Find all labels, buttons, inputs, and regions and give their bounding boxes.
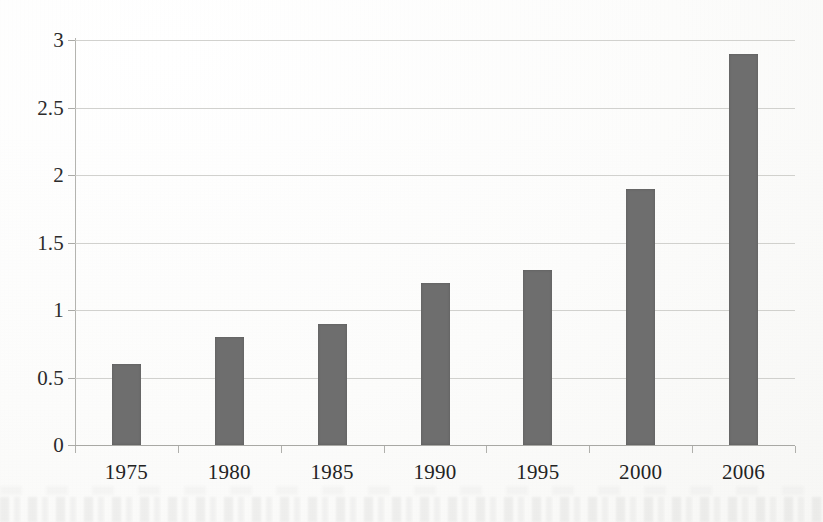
- y-tick-mark: [68, 445, 75, 446]
- bar: [421, 283, 450, 445]
- x-tick-mark: [281, 446, 282, 453]
- x-tick-mark: [486, 446, 487, 453]
- x-tick-mark: [692, 446, 693, 453]
- x-axis-tick-label: 1995: [483, 460, 593, 485]
- y-axis-tick-label: 2.5: [8, 95, 64, 120]
- x-tick-mark: [384, 446, 385, 453]
- y-tick-mark: [68, 243, 75, 244]
- x-axis-tick-label: 2000: [586, 460, 696, 485]
- y-axis-tick-label: 3: [8, 28, 64, 53]
- y-axis-tick-label: 1.5: [8, 230, 64, 255]
- y-tick-mark: [68, 310, 75, 311]
- y-axis-tick-label: 2: [8, 163, 64, 188]
- bar: [523, 270, 552, 446]
- bar: [626, 189, 655, 446]
- x-tick-mark: [795, 446, 796, 453]
- bar-chart: 00.511.522.53 19751980198519901995200020…: [0, 0, 823, 522]
- plot-area: [75, 40, 795, 445]
- x-axis-tick-label: 1990: [380, 460, 490, 485]
- x-tick-mark: [75, 446, 76, 453]
- y-tick-mark: [68, 40, 75, 41]
- x-axis-tick-label: 1975: [71, 460, 181, 485]
- x-tick-mark: [589, 446, 590, 453]
- y-axis-tick-label: 0.5: [8, 365, 64, 390]
- x-axis-tick-label: 1980: [174, 460, 284, 485]
- bar: [318, 324, 347, 446]
- y-axis-tick-label: 1: [8, 298, 64, 323]
- y-axis-tick-label: 0: [8, 433, 64, 458]
- bar: [729, 54, 758, 446]
- gridline: [75, 445, 795, 446]
- bar: [112, 364, 141, 445]
- bar: [215, 337, 244, 445]
- x-axis-tick-label: 2006: [689, 460, 799, 485]
- y-tick-mark: [68, 378, 75, 379]
- y-tick-mark: [68, 175, 75, 176]
- y-axis-tick-labels: 00.511.522.53: [4, 0, 64, 522]
- y-tick-mark: [68, 108, 75, 109]
- x-axis-tick-label: 1985: [277, 460, 387, 485]
- x-tick-mark: [178, 446, 179, 453]
